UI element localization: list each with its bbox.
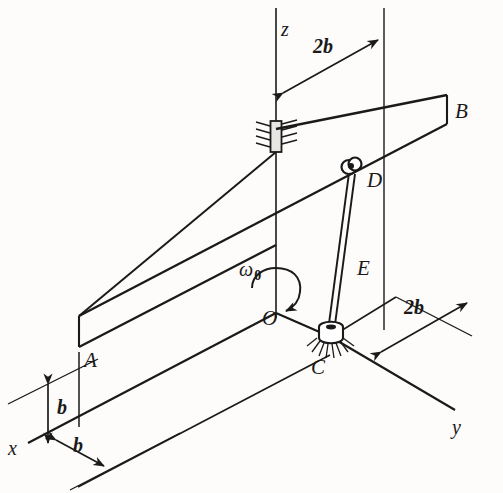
- dimension-label-horizontal-b: b: [73, 434, 83, 457]
- rotation-label-omega: ω0: [239, 258, 260, 281]
- dimension-label-vertical-b: b: [57, 396, 67, 419]
- omega-subscript: 0: [254, 268, 261, 283]
- omega-symbol: ω: [239, 258, 253, 280]
- point-label-D: D: [367, 168, 382, 193]
- point-label-O: O: [262, 306, 277, 331]
- point-label-B: B: [455, 99, 468, 124]
- point-label-A: A: [84, 348, 97, 373]
- dimension-label-top-2b: 2b: [313, 35, 333, 58]
- axis-label-z: z: [281, 18, 289, 41]
- point-label-E: E: [357, 256, 370, 281]
- dimension-label-right-2b: 2b: [404, 296, 424, 319]
- mechanics-diagram: [0, 0, 503, 493]
- axis-label-y: y: [452, 416, 461, 439]
- axis-label-x: x: [8, 437, 17, 460]
- point-label-C: C: [311, 355, 325, 380]
